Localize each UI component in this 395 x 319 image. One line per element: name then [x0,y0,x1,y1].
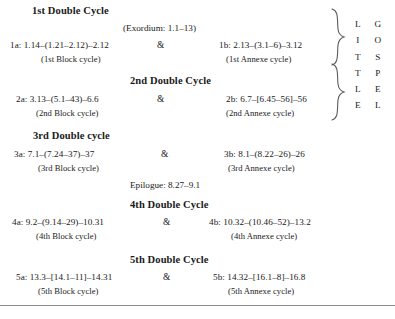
cycle-5-annexe-ref: 5b: 14.32–[16.1–8]–16.8 [213,273,306,282]
letter-gospel-1: O [372,32,384,48]
cycle-title-2: 2nd Double Cycle [130,76,211,87]
cycle-1-ampersand: & [157,41,164,50]
letter-little-0: L [352,16,364,32]
cycle-2-block-label: (2nd Block cycle) [36,109,98,118]
letter-little-5: E [352,97,364,113]
bottom-divider [0,305,395,306]
cycle-5-annexe-label: (5th Annexe cycle) [228,287,294,296]
cycle-4-annexe-label: (4th Annexe cycle) [231,232,297,241]
cycle-2-annexe-label: (2nd Annexe cycle) [226,109,294,118]
brace-cycle-1 [330,8,346,66]
cycle-5-block-label: (5th Block cycle) [38,287,99,296]
cycle-1-annexe-ref: 1b: 2.13–(3.1–6)–3.12 [219,41,302,50]
cycle-5-ampersand: & [163,273,170,282]
cycle-2-annexe-ref: 2b: 6.7–[6.45–56]–56 [226,95,307,104]
letter-gospel-2: S [372,49,384,65]
cycle-title-1: 1st Double Cycle [32,6,109,17]
letter-little-2: T [352,49,364,65]
letter-gospel-0: G [372,16,384,32]
letter-column-little: L I T T L E [352,16,364,114]
cycle-3-block-ref: 3a: 7.1–(7.24–37)–37 [14,150,94,159]
cycle-1-annexe-label: (1st Annexe cycle) [226,55,291,64]
cycle-2-block-ref: 2a: 3.13–(5.1–43)–6.6 [16,95,99,104]
letter-gospel-3: P [372,65,384,81]
letter-gospel-4: E [372,81,384,97]
cycle-3-ampersand: & [161,150,168,159]
cycle-4-annexe-ref: 4b: 10.32–(10.46–52)–13.2 [209,218,311,227]
cycle-1-block-label: (1st Block cycle) [41,55,101,64]
cycle-4-block-ref: 4a: 9.2–(9.14–29)–10.31 [12,218,104,227]
letter-little-1: I [352,32,364,48]
cycle-3-annexe-ref: 3b: 8.1–(8.22–26)–26 [224,150,305,159]
letter-column-gospel: G O S P E L [372,16,384,114]
cycle-4-ampersand: & [163,218,170,227]
letter-little-4: L [352,81,364,97]
cycle-1-block-ref: 1a: 1.14–(1.21–2.12)–2.12 [10,41,109,50]
double-cycle-figure: 1st Double Cycle (Exordium: 1.1–13) 1a: … [0,0,395,319]
cycle-title-3: 3rd Double cycle [33,131,110,142]
cycle-2-ampersand: & [157,95,164,104]
cycle-3-block-label: (3rd Block cycle) [38,164,99,173]
cycle-5-block-ref: 5a: 13.3–[14.1–11]–14.31 [16,273,112,282]
cycle-3-annexe-label: (3rd Annexe cycle) [228,164,295,173]
cycle-4-block-label: (4th Block cycle) [36,232,97,241]
letter-little-3: T [352,65,364,81]
brace-cycle-2 [330,63,346,121]
cycle-title-4: 4th Double Cycle [130,200,209,211]
cycle-title-5: 5th Double Cycle [130,255,209,266]
exordium-note: (Exordium: 1.1–13) [123,24,196,33]
epilogue-note: Epilogue: 8.27–9.1 [130,181,200,190]
letter-gospel-5: L [372,97,384,113]
